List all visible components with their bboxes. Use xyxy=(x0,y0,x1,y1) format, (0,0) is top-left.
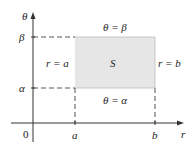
theta-axis-label: θ xyxy=(22,10,28,22)
tick-label-beta: β xyxy=(18,31,25,43)
region-label: S xyxy=(110,57,116,69)
top-boundary-label: θ = β xyxy=(103,21,127,33)
polar-rectangle-diagram: θ r 0 β α a b S θ = β θ = α r = a r = b xyxy=(0,0,195,149)
r-axis-arrow-icon xyxy=(177,121,184,126)
left-boundary-label: r = a xyxy=(46,57,69,69)
tick-label-alpha: α xyxy=(19,82,25,94)
tick-label-a: a xyxy=(72,129,78,141)
bottom-boundary-label: θ = α xyxy=(103,94,127,106)
theta-axis-arrow-icon xyxy=(31,12,36,19)
right-boundary-label: r = b xyxy=(158,57,181,69)
r-axis-label: r xyxy=(181,128,186,140)
tick-label-b: b xyxy=(152,129,158,141)
origin-label: 0 xyxy=(23,128,29,140)
